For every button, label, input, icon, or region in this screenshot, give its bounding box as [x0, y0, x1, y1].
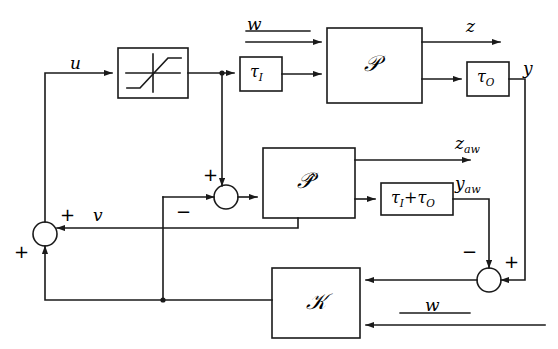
- signal-v-label: v: [93, 207, 103, 224]
- sum-left-sign-plus-bottom: +: [14, 243, 29, 261]
- wire-controller-out: [45, 246, 272, 300]
- block-diagram: τI 𝒫 τO 𝒫̂ τI+τO 𝒦 u w z y zaw yaw v w +…: [0, 0, 558, 349]
- sum-middle-junction: [214, 185, 238, 209]
- plant-label: 𝒫: [364, 53, 380, 75]
- junction-dot-controller: [160, 297, 165, 302]
- signal-y-aw-label: yaw: [455, 175, 481, 195]
- signal-y-label: y: [523, 60, 533, 77]
- sum-left-junction: [33, 222, 57, 246]
- plant-hat-label: 𝒫̂: [297, 170, 313, 192]
- sum-middle-sign-plus: +: [203, 166, 218, 184]
- junction-dot-sat: [219, 70, 224, 75]
- signal-z-aw-label: zaw: [455, 135, 480, 155]
- sum-right-sign-minus: −: [462, 243, 477, 261]
- signal-z-label: z: [466, 18, 475, 35]
- signal-u-label: u: [70, 55, 81, 72]
- signal-w-bottom-label: w: [425, 297, 440, 314]
- tau-sum-label: τI+τO: [391, 190, 435, 209]
- wire-y-feedback: [501, 79, 525, 280]
- signal-w-top-label: w: [247, 16, 262, 33]
- sum-right-sign-plus: +: [504, 253, 519, 271]
- tau-i-label: τI: [250, 64, 263, 83]
- tau-o-label: τO: [477, 69, 494, 88]
- controller-label: 𝒦: [306, 291, 326, 313]
- sum-left-sign-plus-top: +: [60, 206, 75, 224]
- saturation-nonlinearity-icon: [126, 54, 181, 92]
- wire-u: [45, 73, 112, 222]
- sum-middle-sign-minus: −: [176, 203, 191, 221]
- sum-right-junction: [477, 268, 501, 292]
